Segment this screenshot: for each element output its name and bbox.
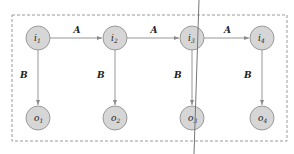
edge-label-B: B bbox=[173, 70, 182, 80]
edge-label-B: B bbox=[96, 70, 105, 80]
node-o3: o3 bbox=[180, 106, 204, 130]
node-o1: o1 bbox=[26, 106, 50, 130]
node-i1: i1 bbox=[26, 26, 50, 50]
node-i4: i4 bbox=[250, 26, 274, 50]
edge-label-B: B bbox=[19, 70, 28, 80]
edge-label-A: A bbox=[73, 25, 81, 35]
node-o2: o2 bbox=[103, 106, 127, 130]
edge-label-B: B bbox=[243, 70, 252, 80]
edge-label-A: A bbox=[150, 25, 158, 35]
cut-line bbox=[194, 0, 199, 154]
hmm-diagram: AAABBBB i1i2i3i4o1o2o3o4 bbox=[0, 0, 294, 154]
edge-label-A: A bbox=[223, 25, 231, 35]
node-i3: i3 bbox=[180, 26, 204, 50]
node-o4: o4 bbox=[250, 106, 274, 130]
node-i2: i2 bbox=[103, 26, 127, 50]
